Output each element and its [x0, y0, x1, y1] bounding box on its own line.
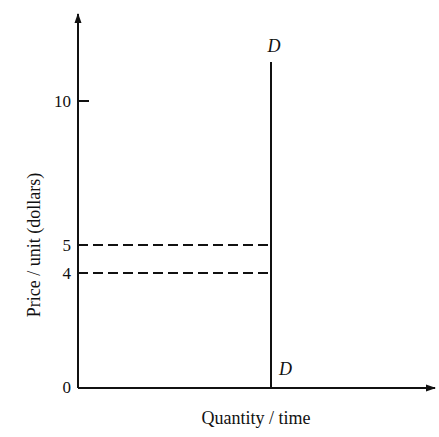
y-tick-label-10: 10	[54, 92, 71, 111]
chart-figure: 10 5 4 0 D D Price / unit (dollars) Quan…	[0, 0, 439, 437]
y-tick-label-0: 0	[63, 378, 72, 397]
y-tick-label-4: 4	[63, 264, 72, 283]
demand-label-top: D	[267, 36, 281, 56]
chart-canvas: 10 5 4 0 D D Price / unit (dollars) Quan…	[0, 0, 439, 437]
y-tick-label-5: 5	[63, 236, 72, 255]
demand-label-bottom: D	[278, 359, 292, 379]
y-axis-title: Price / unit (dollars)	[24, 173, 45, 317]
x-axis-title: Quantity / time	[202, 408, 311, 428]
